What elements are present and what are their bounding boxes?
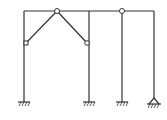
hinge-icon <box>85 41 90 46</box>
fixed-support-icon <box>116 102 128 106</box>
frame-diagram <box>0 0 167 120</box>
brace-right <box>57 11 87 43</box>
fixed-support-icon <box>18 102 30 106</box>
brace-left <box>26 11 57 43</box>
hinge-icon <box>24 41 28 45</box>
fixed-support-icon <box>83 102 95 106</box>
hinge-icon <box>55 9 60 14</box>
hinge-icon <box>120 9 125 14</box>
pin-support-icon <box>147 98 161 108</box>
